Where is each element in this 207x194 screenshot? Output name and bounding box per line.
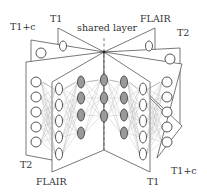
hidden-layer-2-node [121,92,128,104]
multimodal-network-diagram: T1+cT1shared layerFLAIRT2T2FLAIRT1T1+c [0,0,207,194]
t2-input-layer-node [31,107,41,117]
hidden-layer-1-node [78,92,85,104]
t1-output-layer-node [140,115,147,127]
label-t1-bottom: T1 [147,176,159,187]
t2-input-layer-node [31,92,41,102]
t1c-output-layer-node [162,122,172,132]
shared-layer-node [101,92,108,104]
t1-output-layer-node [140,148,147,160]
t1c-output-layer-node [162,77,172,87]
hidden-layer-1-node [78,109,85,121]
label-t2-top: T2 [177,27,189,38]
t1c-top-node [36,48,46,58]
flair-input-layer-node [56,115,63,127]
label-t1c-bottom: T1+c [171,165,197,176]
t2-input-layer-node [31,137,41,147]
t2-top-node [165,54,175,64]
label-t1-top: T1 [50,13,62,24]
t2-input-layer-node [31,122,41,132]
t1-output-layer-node [140,99,147,111]
convergence-point [103,51,106,54]
label-t2-bottom: T2 [20,159,32,170]
t1-output-layer-node [140,131,147,143]
hidden-layer-2-node [121,109,128,121]
hidden-layer-1-node [78,76,85,88]
shared-layer-node [101,74,108,86]
flair-input-layer-node [56,83,63,95]
hidden-layer-1-node [78,127,85,139]
flair-input-layer-node [56,99,63,111]
flair-top-node [146,41,153,51]
shared-layer-node [101,110,108,122]
label-shared: shared layer [77,22,138,33]
label-t1c-top: T1+c [10,21,36,32]
t1c-output-layer-node [162,107,172,117]
t2-input-layer-node [31,77,41,87]
flair-input-layer-node [56,131,63,143]
label-flair-top: FLAIR [140,13,172,24]
t1-output-layer-node [140,83,147,95]
hidden-layer-2-node [121,76,128,88]
t1c-output-layer-node [162,92,172,102]
label-flair-bottom: FLAIR [36,176,68,187]
flair-input-layer-node [56,148,63,160]
t1-top-node [60,41,67,51]
hidden-layer-2-node [121,127,128,139]
t1c-output-layer-node [162,137,172,147]
